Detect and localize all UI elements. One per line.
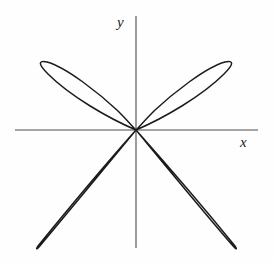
y-axis-label: y	[117, 15, 124, 30]
curve-upper-left-petal	[40, 62, 136, 131]
curve-lower-left-ray	[37, 130, 136, 249]
axes-group	[15, 16, 258, 248]
curve-lower-right-ray	[136, 130, 236, 249]
x-axis-label: x	[240, 135, 247, 150]
plot-canvas	[0, 0, 274, 262]
polar-curve-figure: y x	[0, 0, 274, 262]
curve-upper-right-petal	[136, 62, 232, 131]
